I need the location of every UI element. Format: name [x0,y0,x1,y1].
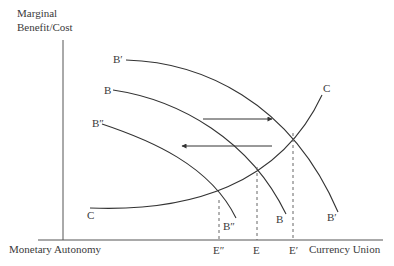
c-curve [90,95,322,208]
b-curve [113,90,286,214]
b-double-prime-start-label: B″ [92,117,104,130]
b-double-prime-end-label: B″ [223,220,235,233]
x-axis-right-label: Currency Union [309,243,380,256]
y-axis-label-line2: Benefit/Cost [17,21,73,34]
b-prime-end-label: B′ [327,211,337,224]
x-axis-left-label: Monetary Autonomy [9,243,101,256]
economics-diagram: Marginal Benefit/Cost B′ B B″ C C B″ B B… [0,0,394,266]
b-prime-curve [126,60,338,212]
c-end-label: C [323,82,330,95]
b-start-label: B [104,84,111,97]
b-prime-start-label: B′ [113,53,123,66]
y-axis-label-line1: Marginal [17,7,57,20]
b-end-label: B [276,213,283,226]
e-double-prime-label: E″ [213,244,224,257]
e-prime-label: E′ [289,244,298,257]
c-start-label: C [87,209,94,222]
e-label: E [253,244,260,257]
diagram-plot [0,0,394,266]
